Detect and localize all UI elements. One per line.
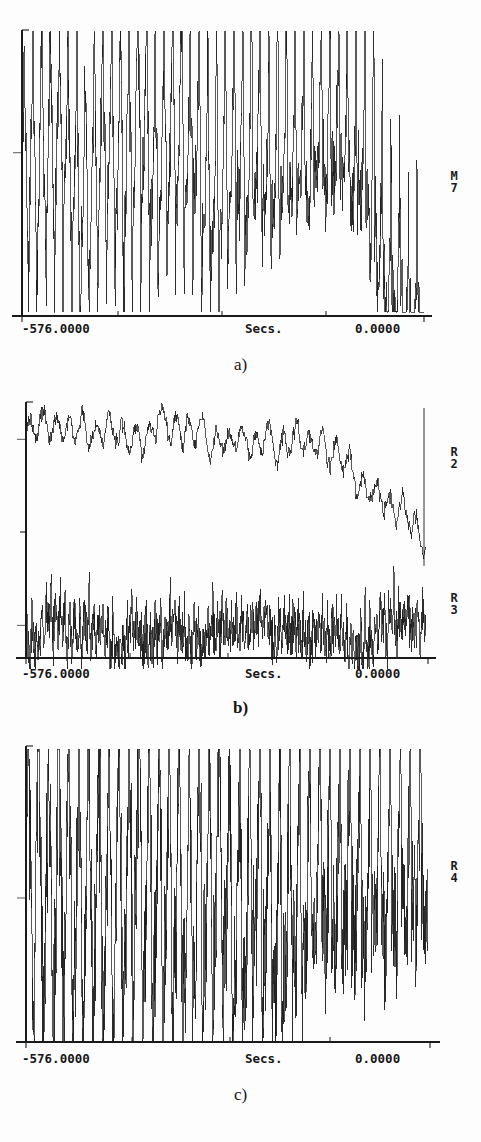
trace-label-r2-line2: 2 xyxy=(446,458,462,470)
panel-c-x-axis-title: Secs. xyxy=(245,1052,283,1066)
figure-page: M 7 -576.0000 Secs. 0.0000 a) R 2 R 3 -5… xyxy=(0,0,481,1142)
trace-r4 xyxy=(26,749,428,1042)
panel-a-x-axis-title: Secs. xyxy=(245,322,283,336)
trace-label-r2: R 2 xyxy=(446,446,462,470)
panel-c-caption: c) xyxy=(0,1085,481,1105)
panel-a-caption: a) xyxy=(0,355,481,375)
panel-c: R 4 -576.0000 Secs. 0.0000 c) xyxy=(0,720,481,1142)
panel-b: R 2 R 3 -576.0000 Secs. 0.0000 b) xyxy=(0,380,481,720)
panel-b-x-right-label: 0.0000 xyxy=(355,667,400,681)
trace-label-r3: R 3 xyxy=(446,592,462,616)
trace-r2 xyxy=(26,403,426,559)
trace-label-r3-line2: 3 xyxy=(446,604,462,616)
panel-a-x-left-label: -576.0000 xyxy=(22,322,90,336)
panel-c-plot xyxy=(0,720,481,1075)
trace-label-r4-line2: 4 xyxy=(446,872,462,884)
panel-a-x-right-label: 0.0000 xyxy=(355,322,400,336)
panel-b-caption: b) xyxy=(0,698,481,718)
panel-c-x-left-label: -576.0000 xyxy=(22,1052,90,1066)
panel-b-x-axis-title: Secs. xyxy=(245,667,283,681)
trace-label-m7-line2: 7 xyxy=(446,182,462,194)
panel-b-svg xyxy=(0,380,481,685)
panel-c-x-right-label: 0.0000 xyxy=(355,1052,400,1066)
panel-c-svg xyxy=(0,720,481,1075)
trace-m7 xyxy=(22,31,424,312)
trace-label-m7: M 7 xyxy=(446,170,462,194)
panel-a: M 7 -576.0000 Secs. 0.0000 a) xyxy=(0,0,481,380)
panel-a-plot xyxy=(0,0,481,345)
trace-r3 xyxy=(26,566,426,668)
trace-label-r4: R 4 xyxy=(446,860,462,884)
panel-b-x-left-label: -576.0000 xyxy=(22,667,90,681)
panel-a-svg xyxy=(0,0,481,345)
panel-b-plot xyxy=(0,380,481,685)
